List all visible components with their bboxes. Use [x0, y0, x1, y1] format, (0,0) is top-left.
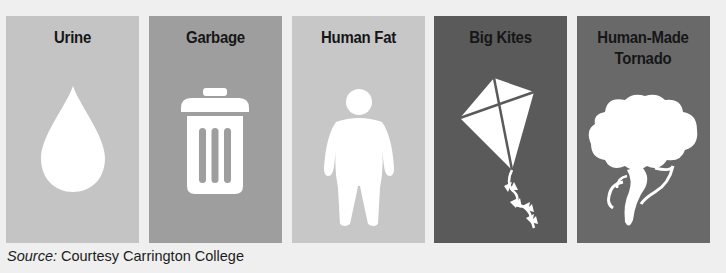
panel-label: Garbage — [157, 27, 274, 48]
panel-human-fat: Human Fat — [292, 16, 425, 243]
panel-human-made-tornado: Human-Made Tornado — [577, 16, 710, 243]
panel-label: Big Kites — [442, 27, 559, 48]
panel-label: Urine — [14, 27, 131, 48]
source-text: Courtesy Carrington College — [57, 248, 244, 264]
panel-big-kites: Big Kites — [434, 16, 567, 243]
trash-can-icon — [179, 88, 251, 196]
panel-label: Human Fat — [300, 27, 417, 48]
source-prefix: Source: — [7, 248, 57, 264]
panel-label: Human-Made Tornado — [595, 27, 692, 69]
source-caption: Source: Courtesy Carrington College — [7, 248, 244, 264]
tornado-icon — [585, 92, 705, 232]
panel-garbage: Garbage — [149, 16, 282, 243]
kite-icon — [456, 78, 546, 238]
panel-urine: Urine — [6, 16, 139, 243]
person-icon — [322, 88, 396, 226]
water-drop-icon — [38, 86, 108, 196]
